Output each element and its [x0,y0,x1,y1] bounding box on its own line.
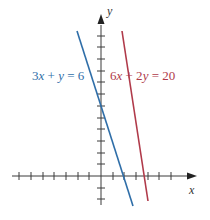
chart-svg [0,0,210,220]
chart-container: y x 3x + y = 6 6x + 2y = 20 [0,0,210,220]
y-axis-label: y [107,5,112,17]
equation-label-red: 6x + 2y = 20 [110,69,175,82]
x-axis-arrow-icon [187,173,197,180]
x-axis [12,172,197,180]
equation-label-blue: 3x + y = 6 [32,69,84,82]
y-axis-arrow-icon [98,14,105,24]
x-axis-label: x [189,184,194,196]
line-3x-plus-y-eq-6 [77,31,133,206]
